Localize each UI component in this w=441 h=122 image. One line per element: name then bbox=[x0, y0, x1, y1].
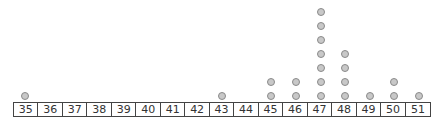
tick-label-42: 42 bbox=[185, 103, 209, 116]
data-dot bbox=[317, 36, 325, 44]
tick-label-49: 49 bbox=[357, 103, 381, 116]
tick-label-45: 45 bbox=[259, 103, 283, 116]
tick-label-47: 47 bbox=[308, 103, 332, 116]
data-dot bbox=[21, 92, 29, 100]
data-dot bbox=[366, 92, 374, 100]
data-dot bbox=[317, 50, 325, 58]
tick-label-40: 40 bbox=[136, 103, 160, 116]
tick-label-39: 39 bbox=[112, 103, 136, 116]
data-dot bbox=[415, 92, 423, 100]
tick-label-43: 43 bbox=[210, 103, 234, 116]
data-dot bbox=[341, 50, 349, 58]
tick-label-36: 36 bbox=[38, 103, 62, 116]
data-dot bbox=[390, 92, 398, 100]
data-dot bbox=[390, 78, 398, 86]
data-dot bbox=[292, 92, 300, 100]
data-dot bbox=[292, 78, 300, 86]
data-dot bbox=[317, 64, 325, 72]
data-dot bbox=[267, 78, 275, 86]
number-line: 3536373839404142434445464748495051 bbox=[13, 102, 431, 117]
data-dot bbox=[341, 92, 349, 100]
data-dot bbox=[317, 78, 325, 86]
tick-label-48: 48 bbox=[332, 103, 356, 116]
dot-plot: 3536373839404142434445464748495051 bbox=[0, 0, 441, 122]
tick-label-38: 38 bbox=[87, 103, 111, 116]
data-dot bbox=[317, 92, 325, 100]
data-dot bbox=[341, 64, 349, 72]
data-dot bbox=[341, 78, 349, 86]
tick-label-44: 44 bbox=[234, 103, 258, 116]
tick-label-50: 50 bbox=[381, 103, 405, 116]
tick-label-46: 46 bbox=[283, 103, 307, 116]
data-dot bbox=[317, 8, 325, 16]
data-dot bbox=[267, 92, 275, 100]
tick-label-35: 35 bbox=[14, 103, 38, 116]
data-dot bbox=[317, 22, 325, 30]
tick-label-37: 37 bbox=[63, 103, 87, 116]
tick-label-41: 41 bbox=[161, 103, 185, 116]
data-dot bbox=[218, 92, 226, 100]
tick-label-51: 51 bbox=[406, 103, 430, 116]
